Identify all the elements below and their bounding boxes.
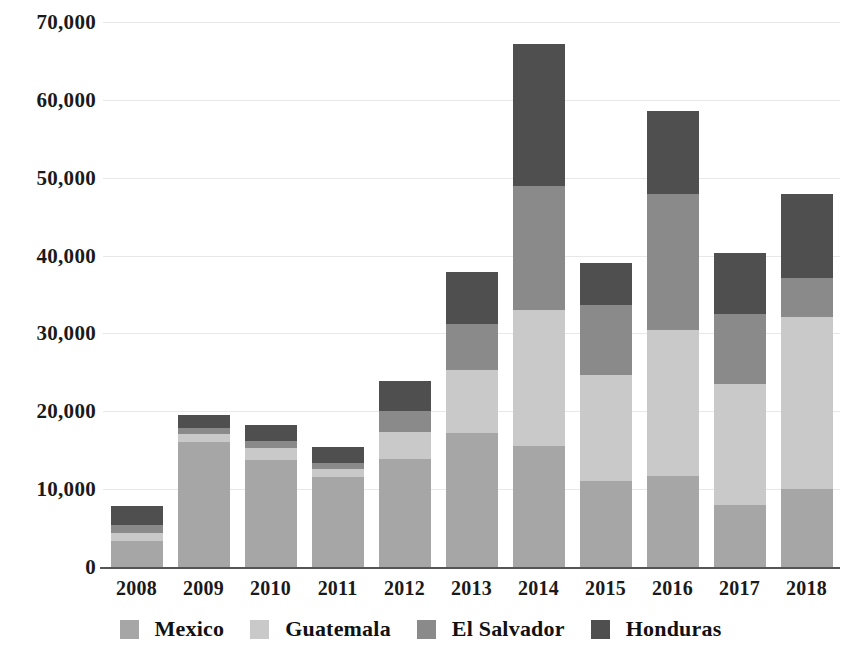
x-tick-label-2016: 2016 (639, 577, 706, 600)
bar-2014[interactable] (513, 44, 565, 567)
bar-segment-el-salvador[interactable] (111, 525, 163, 533)
y-tick-label: 20,000 (4, 399, 96, 424)
bar-segment-guatemala[interactable] (513, 310, 565, 445)
legend-item-honduras[interactable]: Honduras (591, 616, 722, 642)
bar-segment-mexico[interactable] (312, 477, 364, 567)
bar-2016[interactable] (647, 111, 699, 567)
bar-segment-guatemala[interactable] (312, 469, 364, 477)
legend-label: Guatemala (285, 616, 391, 642)
legend-label: Mexico (155, 616, 225, 642)
bar-segment-mexico[interactable] (245, 460, 297, 567)
y-tick-label: 60,000 (4, 87, 96, 112)
bar-segment-guatemala[interactable] (446, 370, 498, 433)
x-tick-label-2014: 2014 (505, 577, 572, 600)
bar-segment-el-salvador[interactable] (513, 186, 565, 311)
bar-segment-el-salvador[interactable] (647, 194, 699, 330)
legend-item-el-salvador[interactable]: El Salvador (417, 616, 565, 642)
chart-container: 010,00020,00030,00040,00050,00060,00070,… (0, 0, 841, 649)
bar-segment-honduras[interactable] (714, 253, 766, 314)
bar-segment-honduras[interactable] (781, 194, 833, 278)
legend-item-mexico[interactable]: Mexico (120, 616, 225, 642)
bar-segment-el-salvador[interactable] (781, 278, 833, 317)
legend-label: Honduras (626, 616, 722, 642)
bar-segment-el-salvador[interactable] (446, 324, 498, 370)
legend-swatch-icon (250, 620, 269, 639)
bar-segment-mexico[interactable] (513, 446, 565, 567)
bar-segment-mexico[interactable] (178, 442, 230, 567)
bar-2015[interactable] (580, 263, 632, 567)
bar-2009[interactable] (178, 415, 230, 567)
x-axis-labels: 2008200920102011201220132014201520162017… (103, 577, 840, 607)
bar-2011[interactable] (312, 447, 364, 567)
bar-segment-guatemala[interactable] (178, 434, 230, 442)
bar-segment-honduras[interactable] (312, 447, 364, 463)
bar-segment-honduras[interactable] (446, 272, 498, 324)
bar-segment-guatemala[interactable] (647, 330, 699, 476)
y-tick-label: 30,000 (4, 321, 96, 346)
y-tick-label: 40,000 (4, 243, 96, 268)
legend-swatch-icon (591, 620, 610, 639)
bar-series-group (103, 22, 840, 567)
bar-segment-honduras[interactable] (111, 506, 163, 525)
bar-2012[interactable] (379, 381, 431, 567)
bar-segment-guatemala[interactable] (245, 448, 297, 460)
y-axis-labels: 010,00020,00030,00040,00050,00060,00070,… (0, 0, 96, 649)
bar-2017[interactable] (714, 253, 766, 567)
bar-segment-mexico[interactable] (379, 459, 431, 567)
bar-segment-mexico[interactable] (647, 476, 699, 567)
bar-segment-honduras[interactable] (513, 44, 565, 186)
x-tick-label-2013: 2013 (438, 577, 505, 600)
bar-segment-guatemala[interactable] (781, 317, 833, 489)
x-tick-label-2011: 2011 (304, 577, 371, 600)
legend-swatch-icon (120, 620, 139, 639)
y-tick-label: 10,000 (4, 477, 96, 502)
bar-segment-mexico[interactable] (714, 505, 766, 567)
bar-segment-honduras[interactable] (379, 381, 431, 411)
bar-segment-honduras[interactable] (580, 263, 632, 305)
x-tick-label-2012: 2012 (371, 577, 438, 600)
y-tick-label: 70,000 (4, 10, 96, 35)
bar-2010[interactable] (245, 425, 297, 567)
x-tick-label-2010: 2010 (237, 577, 304, 600)
bar-segment-mexico[interactable] (111, 541, 163, 567)
x-axis-line (100, 567, 840, 569)
x-tick-label-2008: 2008 (103, 577, 170, 600)
bar-2013[interactable] (446, 272, 498, 567)
bar-segment-el-salvador[interactable] (379, 411, 431, 432)
bar-segment-mexico[interactable] (580, 481, 632, 567)
bar-segment-honduras[interactable] (245, 425, 297, 441)
x-tick-label-2018: 2018 (773, 577, 840, 600)
bar-segment-guatemala[interactable] (111, 533, 163, 542)
legend-swatch-icon (417, 620, 436, 639)
bar-segment-el-salvador[interactable] (714, 314, 766, 384)
legend-item-guatemala[interactable]: Guatemala (250, 616, 391, 642)
bar-segment-mexico[interactable] (781, 489, 833, 567)
bar-segment-guatemala[interactable] (379, 432, 431, 459)
bar-segment-el-salvador[interactable] (245, 441, 297, 448)
x-tick-label-2009: 2009 (170, 577, 237, 600)
bar-segment-guatemala[interactable] (714, 384, 766, 505)
bar-segment-mexico[interactable] (446, 433, 498, 567)
bar-2018[interactable] (781, 194, 833, 567)
bar-segment-honduras[interactable] (647, 111, 699, 194)
y-tick-label: 50,000 (4, 165, 96, 190)
x-tick-label-2015: 2015 (572, 577, 639, 600)
bar-segment-el-salvador[interactable] (580, 305, 632, 375)
bar-segment-honduras[interactable] (178, 415, 230, 428)
legend-label: El Salvador (452, 616, 565, 642)
bar-segment-guatemala[interactable] (580, 375, 632, 482)
x-tick-label-2017: 2017 (706, 577, 773, 600)
bar-2008[interactable] (111, 506, 163, 567)
y-tick-label: 0 (4, 555, 96, 580)
chart-legend: MexicoGuatemalaEl SalvadorHonduras (0, 612, 841, 646)
